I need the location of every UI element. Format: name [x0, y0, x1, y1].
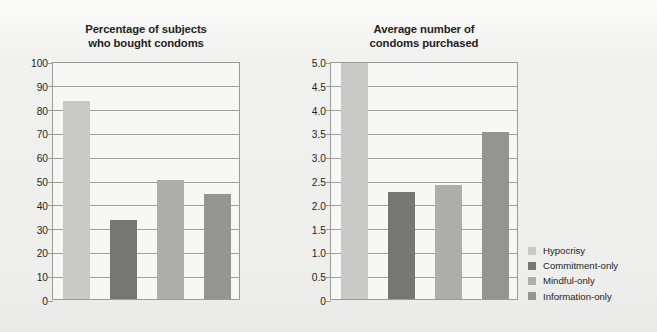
legend-swatch-icon [528, 277, 536, 285]
chart-panel-percentage: Percentage of subjects who bought condom… [52, 62, 240, 300]
chart-title-line-2: who bought condoms [52, 36, 240, 50]
y-axis-tick-label: 80 [37, 105, 48, 116]
bar-commitment-only [110, 220, 137, 299]
legend-item-label: Information-only [543, 291, 612, 302]
legend-swatch-icon [528, 262, 536, 270]
chart-panels: Percentage of subjects who bought condom… [0, 0, 657, 332]
y-axis-tick-label: 40 [37, 200, 48, 211]
y-axis-tick-label: 2.0 [312, 200, 326, 211]
plot-area-average: 00.51.01.52.02.53.03.54.04.55.0 [330, 62, 518, 300]
plot-area-percentage: 0102030405060708090100 [52, 62, 240, 300]
y-axis-tick-label: 1.0 [312, 248, 326, 259]
y-axis-tick-label: 4.0 [312, 105, 326, 116]
legend-swatch-icon [528, 247, 536, 255]
chart-title-line-1: Percentage of subjects [52, 22, 240, 36]
legend-item: Mindful-only [528, 273, 618, 288]
bar-mindful-only [435, 185, 462, 299]
bar-mindful-only [157, 180, 184, 299]
legend-item: Hypocrisy [528, 243, 618, 258]
legend-item: Information-only [528, 289, 618, 304]
bar-hypocrisy [63, 101, 90, 299]
chart-title-line-1: Average number of [330, 22, 518, 36]
legend-item-label: Hypocrisy [543, 245, 585, 256]
y-axis-tick-label: 3.0 [312, 153, 326, 164]
y-axis-tick-label: 60 [37, 153, 48, 164]
y-axis-tick-label: 70 [37, 129, 48, 140]
legend-item-label: Mindful-only [543, 275, 595, 286]
legend-item: Commitment-only [528, 258, 618, 273]
legend-item-label: Commitment-only [543, 260, 618, 271]
y-axis-tick-label: 1.5 [312, 224, 326, 235]
figure-canvas: Percentage of subjects who bought condom… [0, 0, 657, 332]
y-axis-tick-label: 90 [37, 81, 48, 92]
chart-panel-average: Average number of condoms purchased 00.5… [330, 62, 518, 300]
y-axis-tick-label: 50 [37, 177, 48, 188]
y-axis-tick-label: 3.5 [312, 129, 326, 140]
bar-commitment-only [388, 192, 415, 299]
y-axis-tick-label: 2.5 [312, 177, 326, 188]
y-axis-tick-label: 10 [37, 272, 48, 283]
chart-title-percentage: Percentage of subjects who bought condom… [52, 22, 240, 50]
chart-legend: HypocrisyCommitment-onlyMindful-onlyInfo… [528, 243, 618, 304]
bar-information-only [482, 132, 509, 299]
bar-information-only [204, 194, 231, 299]
chart-title-line-2: condoms purchased [330, 36, 518, 50]
bar-series-percentage [53, 63, 239, 299]
y-axis-tick-label: 5.0 [312, 58, 326, 69]
chart-title-average: Average number of condoms purchased [330, 22, 518, 50]
y-axis-tick-label: 100 [31, 58, 48, 69]
y-axis-tick-label: 4.5 [312, 81, 326, 92]
bar-series-average [331, 63, 517, 299]
y-axis-tick-mark [326, 301, 331, 302]
y-axis-tick-label: 0.5 [312, 272, 326, 283]
y-axis-tick-label: 30 [37, 224, 48, 235]
y-axis-tick-mark [48, 301, 53, 302]
y-axis-tick-label: 20 [37, 248, 48, 259]
bar-hypocrisy [341, 63, 368, 299]
legend-swatch-icon [528, 292, 536, 300]
